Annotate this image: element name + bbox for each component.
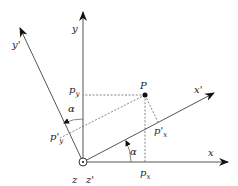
py-label: py [69,84,80,98]
px-prime-label: p'x [154,125,167,139]
projection-pyprime-line [60,95,145,138]
projection-pxprime-line [145,95,158,122]
rotation-diagram: P x y x' y' z z' px py p'x p'y α α [0,0,238,186]
point-p [143,93,148,98]
px-label: px [140,167,150,181]
x-prime-axis [83,93,214,162]
z-axis-origin-dot [82,161,84,163]
alpha-x-label: α [130,146,137,157]
alpha-y-label: α [68,103,75,114]
y-axis-label: y [71,23,78,34]
angle-arc-y [64,119,83,123]
x-prime-axis-label: x' [194,84,202,95]
x-axis-label: x [208,147,214,158]
z-prime-axis-label: z' [85,174,94,185]
point-p-label: P [139,80,147,91]
z-axis-label: z [71,174,78,185]
y-prime-axis-label: y' [11,39,20,50]
py-prime-label: p'y [50,131,64,145]
